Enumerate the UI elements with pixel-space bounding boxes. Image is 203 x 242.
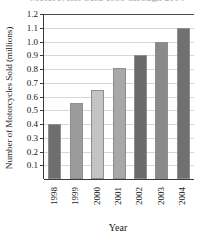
bar [155, 42, 168, 180]
y-axis-tick-labels: 0.10.20.30.40.50.60.70.80.91.01.11.2 [18, 14, 40, 179]
x-axis-title: Year [43, 222, 193, 233]
x-tick-label-text: 1999 [70, 187, 80, 205]
chart-title: Motorcycles Sold 1998 through 2004 [30, 0, 190, 2]
bar [48, 124, 61, 179]
x-tick-label-text: 2003 [156, 187, 166, 205]
y-tick-label: 1.2 [27, 10, 38, 19]
x-tick-label-text: 1998 [49, 187, 59, 205]
y-tick-label: 1.1 [27, 23, 38, 32]
bars-group [44, 14, 194, 179]
y-tick-label: 0.6 [27, 92, 38, 101]
x-tick-label: 2004 [172, 181, 193, 217]
x-tick-label-text: 2001 [113, 187, 123, 205]
y-tick-label: 0.8 [27, 65, 38, 74]
x-tick-label: 1999 [64, 181, 85, 217]
x-axis-baseline [44, 179, 194, 180]
y-tick-label: 0.1 [27, 161, 38, 170]
y-tick-label: 0.4 [27, 120, 38, 129]
x-tick-label: 2002 [129, 181, 150, 217]
y-axis-title: Number of Motorcycles Sold (millions) [0, 0, 18, 196]
bar [177, 28, 190, 179]
x-axis-tick-labels: 1998199920002001200220032004 [43, 181, 193, 219]
x-tick-label-text: 2000 [92, 187, 102, 205]
x-tick-label: 2001 [107, 181, 128, 217]
x-tick-label-text: 2002 [134, 187, 144, 205]
bar [113, 68, 126, 179]
y-tick-label: 0.7 [27, 78, 38, 87]
x-tick-label-text: 2004 [177, 187, 187, 205]
x-tick-label: 1998 [43, 181, 64, 217]
bar [70, 103, 83, 179]
y-tick-label: 0.5 [27, 106, 38, 115]
x-tick-label: 2003 [150, 181, 171, 217]
y-tick-label: 0.9 [27, 51, 38, 60]
y-tick-label: 1.0 [27, 37, 38, 46]
bar [91, 90, 104, 179]
bar [134, 55, 147, 179]
y-axis-title-text: Number of Motorcycles Sold (millions) [4, 27, 14, 169]
plot-area [43, 14, 194, 179]
bar-chart-figure: Motorcycles Sold 1998 through 2004 Numbe… [0, 0, 203, 242]
y-tick-label: 0.2 [27, 147, 38, 156]
y-tick-label: 0.3 [27, 133, 38, 142]
x-tick-label: 2000 [86, 181, 107, 217]
